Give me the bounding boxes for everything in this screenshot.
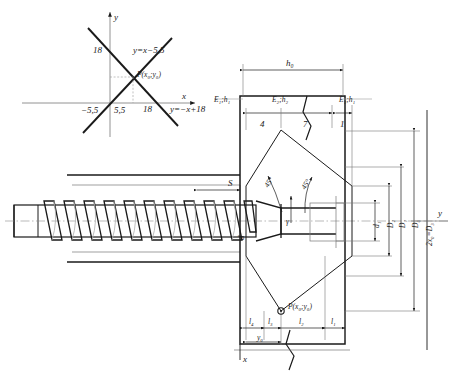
gamma-angle-label: γ xyxy=(286,217,290,226)
global-y-axis-label: y xyxy=(437,208,442,218)
dim-l1-label: l₁ xyxy=(331,317,336,326)
segment-label-7: 7 xyxy=(303,119,308,129)
dim-l2-label: l₂ xyxy=(299,317,304,326)
inset-tick-18-y: 18 xyxy=(93,45,103,55)
h0-label: h₀ xyxy=(286,58,294,68)
dim-y0-label: y₀ xyxy=(256,333,263,342)
core-diameter-label: d xyxy=(236,235,246,240)
inset-y-axis-label: y xyxy=(113,12,118,22)
zone-right-label: E₁;h₁ xyxy=(338,95,355,104)
inset-tick-18-x: 18 xyxy=(143,104,153,114)
angle-annotations: 45° 45° γ xyxy=(262,175,312,226)
point-P-label: P(x₀;y₀) xyxy=(287,302,312,311)
pitch-label: S xyxy=(228,178,233,188)
coordinate-inset: x y 18 −5,5 5,5 18 y=x−5,5 y=−x+18 P(x₀;… xyxy=(22,12,206,137)
inset-tick-55: 5,5 xyxy=(114,105,126,115)
inset-x-axis-label: x xyxy=(181,91,186,101)
dim-l3-label: l₃ xyxy=(268,317,273,326)
inset-line1-equation: y=x−5,5 xyxy=(132,45,165,55)
inset-line2-equation: y=−x+18 xyxy=(169,104,206,114)
dim-D1-label: D₁ xyxy=(398,220,407,229)
dim-2x0-D3-label: 2x₀=D₃ xyxy=(425,223,434,246)
pitch-dimension: S xyxy=(197,178,240,200)
segment-label-1: 1 xyxy=(340,119,345,129)
zone-left-label: E₁;h₁ xyxy=(213,95,230,104)
barrel-outline xyxy=(67,175,240,262)
angle-right-label: 45° xyxy=(299,177,312,191)
segment-label-4: 4 xyxy=(260,119,265,129)
dim-d1-label: d₁ xyxy=(372,221,381,228)
flow-channel-thin xyxy=(310,196,344,248)
dim-D2-label: D₂ xyxy=(386,220,395,229)
top-dimension-h0: h₀ xyxy=(243,58,343,96)
zone-middle-label: E₂;h₂ xyxy=(271,95,288,104)
engineering-drawing-svg: x y 18 −5,5 5,5 18 y=x−5,5 y=−x+18 P(x₀;… xyxy=(0,0,453,372)
break-symbol-top xyxy=(303,96,311,140)
point-P-marker: P(x₀;y₀) xyxy=(278,302,313,314)
dim-l4-label: l₄ xyxy=(249,317,254,326)
inset-point-label: P(x₀;y₀) xyxy=(136,70,161,79)
global-x-axis-label: x xyxy=(242,354,247,364)
inset-tick-neg55: −5,5 xyxy=(81,105,99,115)
technical-drawing-canvas: x y 18 −5,5 5,5 18 y=x−5,5 y=−x+18 P(x₀;… xyxy=(0,0,453,372)
